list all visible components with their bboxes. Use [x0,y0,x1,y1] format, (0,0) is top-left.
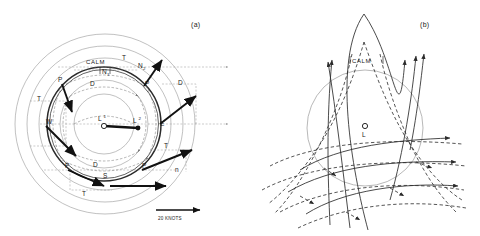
label-t-bottom: T [82,190,86,197]
label-low-1-sup: 1 [104,114,107,119]
calm-label-a: CALM [86,59,105,65]
label-n-lower-right: n [175,166,179,173]
label-t-top: T [122,54,126,61]
solid-trajectories [288,14,458,230]
label-p-lower-left: P [65,162,69,169]
calm-label-b: CALM [352,58,371,64]
label-s-south: S [103,172,108,179]
panel-b: CALM L (b) [240,0,480,236]
scale-bar: 20 KNOTS [156,210,200,221]
label-low-2: L [133,117,137,124]
label-e-east: E [160,120,165,127]
panel-a-svg: L 1 L 2 CALM T N 1 N 2 P D T P D W E [0,0,240,236]
label-d-upper-right: D [178,79,183,86]
panel-b-svg: CALM L (b) [240,0,480,236]
label-t-left-upper: T [37,95,41,102]
label-n2-sub: 2 [143,66,146,71]
panel-a: L 1 L 2 CALM T N 1 N 2 P D T P D W E [0,0,240,236]
label-t-right-lower: T [164,142,168,149]
label-w-west: W [46,118,53,125]
label-n1-sub: 1 [107,72,110,77]
figure-container: L 1 L 2 CALM T N 1 N 2 P D T P D W E [0,0,480,236]
panel-b-label: (b) [420,21,429,29]
label-p-lower-right: P [142,162,146,169]
label-low-2-sup: 2 [139,116,142,121]
label-d-lower: D [93,161,98,168]
panel-a-label: (a) [191,21,200,29]
label-d-upper-left: D [90,80,95,87]
label-low-b: L [362,131,366,138]
low-center-b: L [362,123,368,138]
label-low-1: L [98,115,102,122]
label-p-upper-left: P [58,76,62,83]
scale-bar-label: 20 KNOTS [158,216,182,221]
low-centers: L 1 L 2 [98,114,142,131]
label-p-upper-right: P [145,80,149,87]
